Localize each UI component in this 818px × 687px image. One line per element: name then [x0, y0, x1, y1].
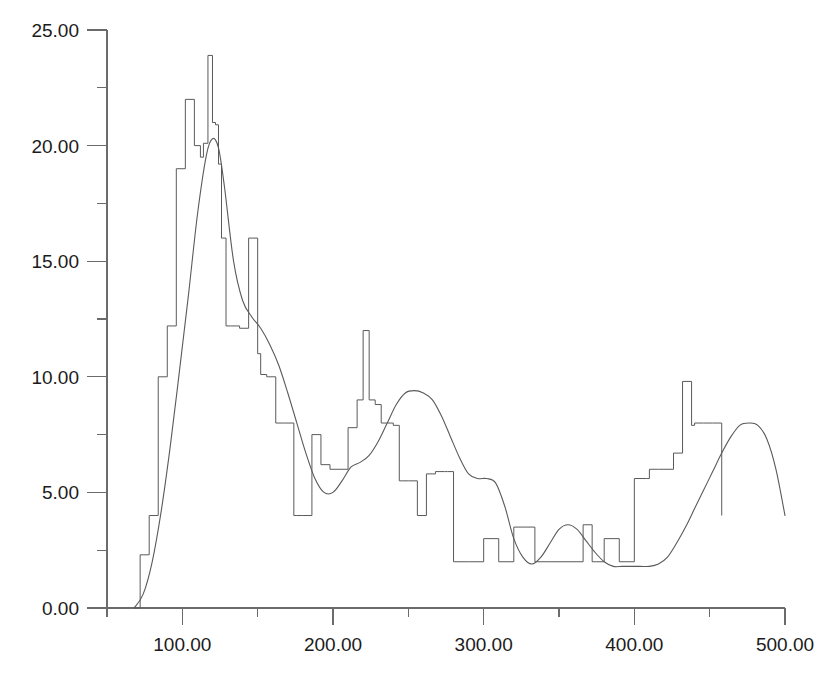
x-axis-tick-label: 500.00	[756, 634, 814, 655]
y-axis-tick-labels: 0.005.0010.0015.0020.0025.00	[31, 20, 79, 619]
y-axis-tick-label: 5.00	[42, 482, 79, 503]
y-axis-tick-label: 10.00	[31, 367, 79, 388]
x-axis-tick-label: 400.00	[605, 634, 663, 655]
chart-container: 0.005.0010.0015.0020.0025.00 100.00200.0…	[0, 0, 818, 687]
x-axis-tick-labels: 100.00200.00300.00400.00500.00	[153, 634, 814, 655]
x-axis-tick-label: 200.00	[304, 634, 362, 655]
x-axis-ticks	[107, 608, 785, 625]
data-series-group	[134, 55, 785, 608]
chart-svg: 0.005.0010.0015.0020.0025.00 100.00200.0…	[0, 0, 818, 687]
x-axis-tick-label: 300.00	[455, 634, 513, 655]
x-axis-tick-label: 100.00	[153, 634, 211, 655]
y-axis-tick-label: 0.00	[42, 598, 79, 619]
y-axis-tick-label: 25.00	[31, 20, 79, 41]
y-axis-tick-label: 15.00	[31, 251, 79, 272]
y-axis-ticks	[87, 30, 107, 608]
smoothed-fit-series	[134, 138, 785, 608]
histogram-step-series	[134, 55, 722, 608]
y-axis-tick-label: 20.00	[31, 136, 79, 157]
